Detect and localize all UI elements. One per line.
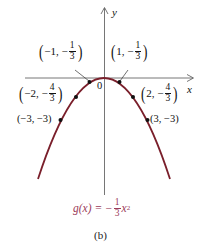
label-text: 2, xyxy=(146,88,154,99)
function-label: g(x) = − 13x2 xyxy=(73,198,130,218)
frac-den: 3 xyxy=(49,94,56,104)
leader-line-m1 xyxy=(75,70,89,81)
frac-num: 1 xyxy=(69,41,76,52)
frac-num: 1 xyxy=(135,41,142,52)
point-p1 xyxy=(118,80,122,84)
label-point-m1: (−1, −13) xyxy=(38,41,83,61)
origin-label: 0 xyxy=(97,81,102,92)
frac-den: 3 xyxy=(114,209,121,219)
y-axis-label: y xyxy=(112,7,117,18)
label-point-p2: (2, −43) xyxy=(140,83,179,103)
label-point-m3: (−3, −3) xyxy=(17,114,52,125)
frac-den: 3 xyxy=(69,52,76,62)
point-m2 xyxy=(74,95,78,99)
point-p2 xyxy=(131,95,135,99)
frac-num: 4 xyxy=(49,83,56,94)
label-point-p1: (1, −13) xyxy=(110,41,149,61)
label-point-m2: (−2, −43) xyxy=(18,83,63,103)
function-exponent: 2 xyxy=(127,204,131,212)
label-text: 1, xyxy=(116,46,124,57)
frac-num: 4 xyxy=(165,83,172,94)
point-p3 xyxy=(146,118,150,122)
frac-den: 3 xyxy=(135,52,142,62)
label-text: −1, xyxy=(44,46,58,57)
point-m3 xyxy=(59,118,63,122)
label-point-p3: (3, −3) xyxy=(150,114,179,125)
point-m1 xyxy=(88,80,92,84)
label-text: −2, xyxy=(24,88,38,99)
x-axis-label: x xyxy=(187,84,192,95)
figure-caption: (b) xyxy=(94,229,107,241)
frac-num: 1 xyxy=(114,198,121,209)
frac-den: 3 xyxy=(165,94,172,104)
function-lhs: g(x) = − xyxy=(73,202,113,214)
leader-line-p1 xyxy=(120,70,128,81)
